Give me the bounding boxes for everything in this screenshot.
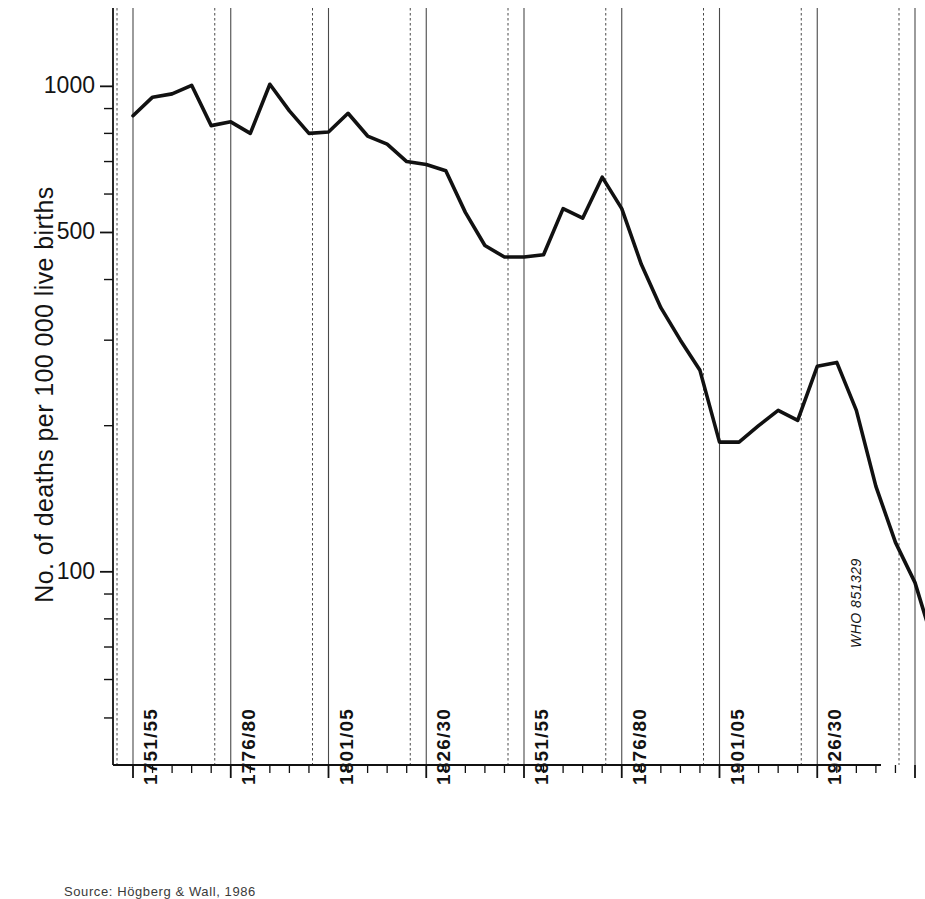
y-tick-label: 500 [0,218,95,245]
y-tick-label: 100 [0,558,95,585]
chart-plot-area [0,0,925,899]
x-tick-label: 1801/05 [336,708,358,785]
x-tick-label: 1901/05 [727,708,749,785]
who-reference-code: WHO 851329 [848,558,864,648]
maternal-mortality-chart: No. of deaths per 100 000 live births WH… [0,0,925,899]
x-tick-label: 1751/55 [140,708,162,785]
x-tick-label: 1926/30 [824,708,846,785]
x-tick-label: 1851/55 [531,708,553,785]
data-series-line [133,84,925,672]
y-tick-label: 1000 [0,72,95,99]
source-note: Source: Högberg & Wall, 1986 [64,884,256,899]
x-tick-label: 1876/80 [629,708,651,785]
x-tick-label: 1826/30 [433,708,455,785]
y-axis-title: No. of deaths per 100 000 live births [30,115,59,675]
x-tick-label: 1776/80 [238,708,260,785]
